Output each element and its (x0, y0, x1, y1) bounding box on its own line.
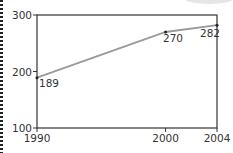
data-labels: 189 270 282 (39, 27, 220, 89)
data-line (37, 25, 217, 77)
data-label-1990: 189 (39, 77, 59, 89)
data-label-2000: 270 (163, 32, 183, 44)
y-tick-300: 300 (12, 9, 32, 21)
y-axis-ticks: 300 200 100 (12, 9, 37, 134)
x-tick-1990: 1990 (24, 132, 51, 144)
line-chart: 300 200 100 1990 2000 2004 189 270 282 (0, 0, 233, 153)
y-tick-200: 200 (12, 66, 32, 78)
data-points (36, 24, 219, 79)
x-axis-ticks: 1990 2000 2004 (24, 128, 231, 144)
x-tick-2004: 2004 (204, 132, 231, 144)
plot-frame (37, 15, 217, 128)
x-tick-2000: 2000 (152, 132, 179, 144)
data-label-2004: 282 (200, 27, 220, 39)
